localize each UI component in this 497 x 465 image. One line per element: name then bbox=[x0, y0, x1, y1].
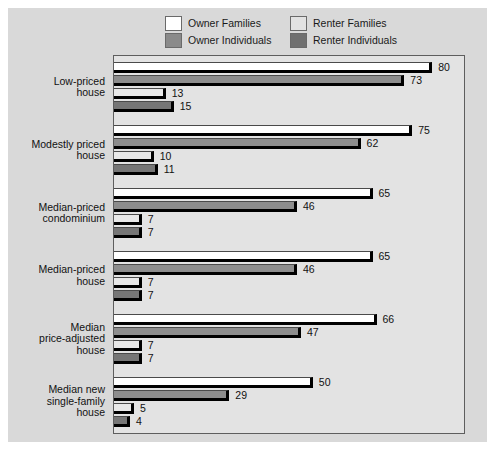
category-label-line: condominium bbox=[10, 213, 105, 225]
bar-value-label: 50 bbox=[319, 376, 331, 388]
bar-value-label: 13 bbox=[172, 87, 184, 99]
bar-row: 65 bbox=[114, 251, 464, 262]
bar-value-label: 7 bbox=[148, 339, 154, 351]
renter-individuals-swatch bbox=[290, 33, 307, 48]
category-label: Median-pricedcondominium bbox=[10, 202, 105, 225]
bar[interactable] bbox=[114, 101, 174, 112]
category-label: Median newsingle-familyhouse bbox=[10, 384, 105, 419]
bar[interactable] bbox=[114, 377, 313, 388]
category-label-line: house bbox=[10, 407, 105, 419]
bar-row: 5 bbox=[114, 403, 464, 414]
legend-item-owner-families[interactable]: Owner Families bbox=[165, 15, 290, 31]
bar[interactable] bbox=[114, 251, 373, 262]
bar-row: 7 bbox=[114, 340, 464, 351]
bar[interactable] bbox=[114, 264, 297, 275]
bar[interactable] bbox=[114, 390, 229, 401]
bar[interactable] bbox=[114, 340, 142, 351]
bar-row: 11 bbox=[114, 164, 464, 175]
bar[interactable] bbox=[114, 164, 158, 175]
bar-row: 7 bbox=[114, 227, 464, 238]
legend-label: Renter Individuals bbox=[313, 33, 397, 48]
owner-individuals-swatch bbox=[165, 33, 182, 48]
bar-value-label: 46 bbox=[303, 263, 315, 275]
category-label: Modestly pricedhouse bbox=[10, 139, 105, 162]
bar-row: 7 bbox=[114, 277, 464, 288]
bar-row: 7 bbox=[114, 290, 464, 301]
bar[interactable] bbox=[114, 201, 297, 212]
legend-label: Owner Individuals bbox=[188, 33, 271, 48]
bar-row: 73 bbox=[114, 75, 464, 86]
plot-area: 8073131575621011654677654677664777502954 bbox=[113, 55, 465, 434]
category-label: Low-pricedhouse bbox=[10, 76, 105, 99]
bar-value-label: 7 bbox=[148, 352, 154, 364]
legend-column-renter: Renter Families Renter Individuals bbox=[290, 15, 415, 48]
bar[interactable] bbox=[114, 416, 130, 427]
renter-families-swatch bbox=[290, 16, 307, 31]
bar[interactable] bbox=[114, 277, 142, 288]
legend-label: Renter Families bbox=[313, 16, 387, 31]
bar-value-label: 66 bbox=[383, 313, 395, 325]
bar-row: 46 bbox=[114, 201, 464, 212]
bar-row: 10 bbox=[114, 151, 464, 162]
category-label: Median-pricedhouse bbox=[10, 264, 105, 287]
bar-row: 15 bbox=[114, 101, 464, 112]
category-label-line: house bbox=[10, 345, 105, 357]
bar-value-label: 7 bbox=[148, 213, 154, 225]
category-label: Medianprice-adjustedhouse bbox=[10, 322, 105, 357]
bar-value-label: 4 bbox=[136, 415, 142, 427]
bar-value-label: 10 bbox=[160, 150, 172, 162]
category-label-line: house bbox=[10, 87, 105, 99]
bar-row: 62 bbox=[114, 138, 464, 149]
bar[interactable] bbox=[114, 290, 142, 301]
bar-row: 29 bbox=[114, 390, 464, 401]
legend-column-owner: Owner Families Owner Individuals bbox=[165, 15, 290, 48]
bar-row: 66 bbox=[114, 314, 464, 325]
category-axis-labels: Low-pricedhouseModestly pricedhouseMedia… bbox=[10, 55, 109, 434]
bar-row: 7 bbox=[114, 353, 464, 364]
bar[interactable] bbox=[114, 125, 412, 136]
legend-item-owner-individuals[interactable]: Owner Individuals bbox=[165, 32, 290, 48]
bar[interactable] bbox=[114, 214, 142, 225]
bar-value-label: 65 bbox=[379, 187, 391, 199]
bar-row: 13 bbox=[114, 88, 464, 99]
bar[interactable] bbox=[114, 314, 377, 325]
bar[interactable] bbox=[114, 227, 142, 238]
bar-row: 4 bbox=[114, 416, 464, 427]
bar[interactable] bbox=[114, 88, 166, 99]
bar-value-label: 46 bbox=[303, 200, 315, 212]
bar[interactable] bbox=[114, 151, 154, 162]
bar-value-label: 62 bbox=[367, 137, 379, 149]
bar[interactable] bbox=[114, 138, 361, 149]
bar[interactable] bbox=[114, 327, 301, 338]
legend-item-renter-individuals[interactable]: Renter Individuals bbox=[290, 32, 415, 48]
bar-value-label: 80 bbox=[438, 61, 450, 73]
bar-value-label: 11 bbox=[164, 163, 175, 175]
category-label-line: price-adjusted bbox=[10, 333, 105, 345]
chart-legend: Owner Families Owner Individuals Renter … bbox=[165, 15, 415, 49]
chart-root: Owner Families Owner Individuals Renter … bbox=[0, 0, 497, 465]
bar-value-label: 15 bbox=[180, 100, 192, 112]
bar-value-label: 7 bbox=[148, 289, 154, 301]
category-label-line: house bbox=[10, 150, 105, 162]
bar[interactable] bbox=[114, 353, 142, 364]
bar-value-label: 7 bbox=[148, 226, 154, 238]
bar-row: 80 bbox=[114, 62, 464, 73]
bar-value-label: 7 bbox=[148, 276, 154, 288]
bar[interactable] bbox=[114, 403, 134, 414]
bar-value-label: 29 bbox=[235, 389, 247, 401]
bar-value-label: 47 bbox=[307, 326, 319, 338]
bar-value-label: 75 bbox=[418, 124, 430, 136]
bar[interactable] bbox=[114, 75, 404, 86]
legend-label: Owner Families bbox=[188, 16, 261, 31]
bar-row: 46 bbox=[114, 264, 464, 275]
owner-families-swatch bbox=[165, 16, 182, 31]
bar-row: 7 bbox=[114, 214, 464, 225]
bars-container: 8073131575621011654677654677664777502954 bbox=[114, 56, 464, 433]
bar-row: 50 bbox=[114, 377, 464, 388]
bar[interactable] bbox=[114, 62, 432, 73]
legend-item-renter-families[interactable]: Renter Families bbox=[290, 15, 415, 31]
category-label-line: house bbox=[10, 276, 105, 288]
bar[interactable] bbox=[114, 188, 373, 199]
bar-row: 47 bbox=[114, 327, 464, 338]
bar-row: 65 bbox=[114, 188, 464, 199]
